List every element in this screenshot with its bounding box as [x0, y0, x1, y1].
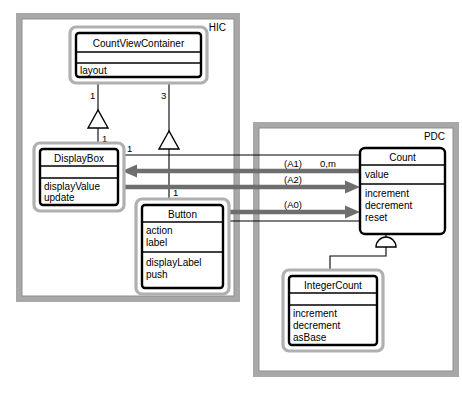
integercount-operation-1: decrement [293, 320, 340, 331]
countviewcontainer-operation-0: layout [80, 65, 107, 76]
class-count[interactable]: Count value increment decrement reset [360, 148, 445, 234]
integercount-name: IntegerCount [304, 280, 362, 291]
button-name: Button [168, 209, 197, 220]
count-operation-1: decrement [365, 200, 412, 211]
displaybox-operation-0: displayValue [44, 181, 100, 192]
count-operation-0: increment [365, 188, 409, 199]
integercount-operation-2: asBase [293, 332, 327, 343]
integercount-operation-0: increment [293, 308, 337, 319]
message-a2-label: (A2) [284, 174, 302, 185]
count-name: Count [389, 152, 416, 163]
button-attribute-0: action [146, 225, 173, 236]
count-attribute-0: value [365, 169, 389, 180]
class-displaybox[interactable]: DisplayBox displayValue update [34, 143, 124, 211]
displaybox-name: DisplayBox [54, 153, 104, 164]
multiplicity-displaybox-assoc: 1 [127, 143, 132, 154]
subject-pdc-label: PDC [424, 131, 445, 142]
button-operation-0: displayLabel [146, 257, 202, 268]
diagram-canvas: HIC PDC 1 1 3 1 1 0,m 1 (A1) [0, 0, 462, 396]
multiplicity-cvc-button: 3 [161, 90, 166, 101]
button-attribute-1: label [146, 237, 167, 248]
class-integercount[interactable]: IntegerCount increment decrement asBase [283, 270, 383, 351]
count-operation-2: reset [365, 212, 387, 223]
multiplicity-count-assoc: 0,m [320, 158, 336, 169]
subject-hic-label: HIC [209, 22, 226, 33]
multiplicity-cvc-displaybox: 1 [90, 90, 95, 101]
button-operation-1: push [146, 269, 168, 280]
message-a0-label: (A0) [284, 199, 302, 210]
displaybox-operation-1: update [44, 192, 75, 203]
message-a1-label: (A1) [284, 158, 302, 169]
countviewcontainer-name: CountViewContainer [93, 38, 185, 49]
class-button[interactable]: Button action label displayLabel push [136, 199, 229, 294]
uml-class-diagram: HIC PDC 1 1 3 1 1 0,m 1 (A1) [0, 0, 462, 396]
class-countviewcontainer[interactable]: CountViewContainer layout [70, 27, 207, 83]
